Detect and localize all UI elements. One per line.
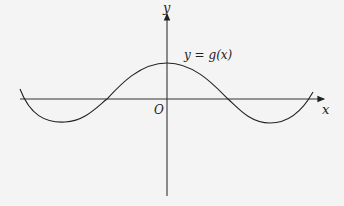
y-axis-label: y xyxy=(162,0,171,15)
graph: y x O y = g(x) xyxy=(0,0,344,206)
curve-label: y = g(x) xyxy=(183,48,233,62)
origin-label: O xyxy=(154,103,164,117)
x-axis-label: x xyxy=(322,102,330,117)
